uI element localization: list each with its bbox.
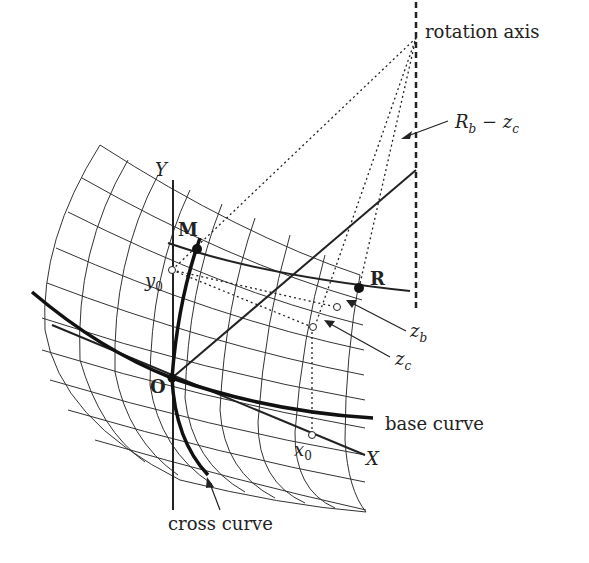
dotted-M-to-axis — [172, 38, 416, 270]
point-zc — [310, 324, 317, 331]
label-zb: zb — [409, 320, 427, 345]
base-curve — [32, 292, 373, 418]
surface-diagram: rotation axis Rb − zc Y M R O y0 x0 X zb… — [0, 0, 589, 563]
label-M: M — [178, 219, 198, 240]
point-zb — [334, 304, 341, 311]
arrow-zc — [324, 320, 390, 357]
point-M — [192, 244, 202, 254]
label-Y: Y — [155, 159, 169, 180]
label-rotation-axis: rotation axis — [425, 21, 539, 42]
label-y0: y0 — [144, 270, 163, 294]
label-X: X — [364, 448, 380, 469]
arrow-zb — [346, 300, 406, 331]
label-R: R — [370, 268, 386, 289]
point-x0 — [309, 432, 316, 439]
surface-mesh — [42, 145, 366, 512]
dotted-R-to-axis — [359, 38, 416, 288]
label-O: O — [150, 376, 166, 397]
point-y0 — [169, 267, 176, 274]
arrow-rb-zc — [401, 121, 448, 139]
dotted-y0-to-zb — [172, 270, 336, 307]
cross-curve — [172, 238, 208, 475]
point-O — [168, 374, 177, 383]
label-base-curve: base curve — [385, 413, 484, 434]
label-rb-minus-zc: Rb − zc — [454, 111, 519, 136]
point-R — [354, 283, 364, 293]
label-cross-curve: cross curve — [168, 513, 273, 534]
label-zc: zc — [394, 348, 411, 373]
arrow-cross-curve — [206, 477, 220, 510]
label-x0: x0 — [294, 439, 312, 463]
